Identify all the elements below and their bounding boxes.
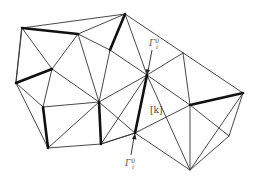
- mesh-edge: [147, 53, 183, 75]
- mesh-edge: [52, 69, 99, 102]
- mesh-edge: [125, 14, 147, 75]
- thick-edge: [190, 93, 243, 105]
- mesh-edge: [78, 34, 99, 102]
- top-boundary-label: Γ0i: [148, 37, 159, 50]
- thick-edge: [43, 107, 48, 148]
- mesh-edge: [190, 105, 229, 136]
- mesh-edge: [190, 93, 243, 170]
- mesh-edge: [99, 75, 147, 102]
- mesh-edge: [43, 102, 99, 107]
- mesh-edge: [183, 53, 190, 105]
- arrow-line: [131, 137, 134, 155]
- mesh-edge: [101, 133, 135, 144]
- mesh-edge: [16, 83, 43, 107]
- arrow-line: [148, 50, 152, 71]
- element-label: [k]: [150, 105, 162, 115]
- bottom-boundary-annotation: Γ0i: [124, 133, 137, 170]
- thick-edge: [99, 102, 101, 144]
- mesh-edge: [16, 28, 22, 83]
- thick-edge: [22, 28, 78, 34]
- mesh-edge: [48, 102, 99, 148]
- mesh-edge: [99, 102, 135, 133]
- mesh-edge: [22, 28, 52, 69]
- mesh-edge: [110, 50, 147, 75]
- mesh-edge: [52, 34, 78, 69]
- thick-edge: [16, 69, 52, 83]
- triangulation-diagram: Γ0i Γ0i [k]: [0, 0, 260, 184]
- mesh-edge: [99, 50, 110, 102]
- mesh-edge: [43, 69, 52, 107]
- mesh-edge: [78, 34, 110, 50]
- mesh-edges: [16, 14, 243, 170]
- bottom-boundary-label: Γ0i: [124, 157, 135, 170]
